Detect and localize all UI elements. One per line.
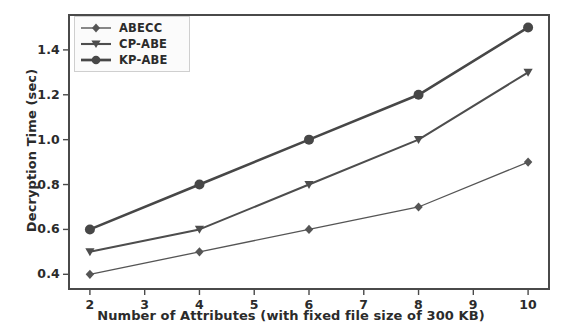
legend-marker-triangle-down-icon: [79, 36, 113, 52]
legend-label-kp-abe: KP-ABE: [119, 53, 168, 67]
data-point-kp-abe: [523, 22, 533, 32]
data-point-abecc: [414, 202, 422, 211]
data-point-kp-abe: [85, 224, 95, 234]
data-point-cp-abe: [523, 69, 532, 77]
series-line-abecc: [90, 162, 528, 274]
legend-label-abecc: ABECC: [119, 21, 162, 35]
chart-page: 0.40.60.81.01.21.4 2345678910 Number of …: [0, 0, 582, 327]
data-point-kp-abe: [304, 135, 314, 145]
data-point-abecc: [524, 157, 532, 166]
legend-label-cp-abe: CP-ABE: [119, 37, 167, 51]
x-axis-title: Number of Attributes (with fixed file si…: [0, 308, 582, 323]
data-point-abecc: [305, 225, 313, 234]
legend-marker-diamond-icon: [79, 20, 113, 36]
legend-item-kp-abe[interactable]: KP-ABE: [79, 52, 185, 68]
data-point-kp-abe: [414, 90, 424, 100]
legend-item-cp-abe[interactable]: CP-ABE: [79, 36, 185, 52]
y-axis-title: Decryption Time (sec): [24, 56, 39, 246]
data-point-kp-abe: [194, 180, 204, 190]
data-point-abecc: [195, 247, 203, 256]
legend-item-abecc[interactable]: ABECC: [79, 20, 185, 36]
data-point-abecc: [86, 270, 94, 279]
data-point-cp-abe: [85, 248, 94, 256]
y-tick-label: 0.4: [18, 266, 60, 281]
legend: ABECC CP-ABE KP-ABE: [74, 16, 190, 72]
legend-marker-circle-icon: [79, 52, 113, 68]
